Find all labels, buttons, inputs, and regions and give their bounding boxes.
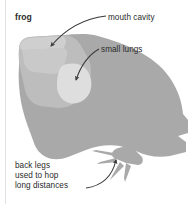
label-back-legs-line-1: back legs xyxy=(15,161,87,171)
label-small-lungs: small lungs xyxy=(101,45,143,55)
label-back-legs-line-2: used to hop xyxy=(15,171,87,181)
hind-foot-shape xyxy=(92,147,143,182)
label-back-legs-line-3: long distances xyxy=(15,181,87,191)
frog-anatomy-figure: frog mouth cavity small lungs back legs … xyxy=(0,0,190,204)
label-back-legs: back legs used to hop long distances xyxy=(15,161,87,192)
figure-title-frog: frog xyxy=(15,12,32,22)
label-mouth-cavity: mouth cavity xyxy=(108,13,155,23)
lungs-shape xyxy=(57,64,91,104)
back-legs-arrow xyxy=(86,160,116,188)
